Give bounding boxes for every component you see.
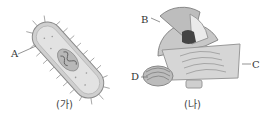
label-a: A bbox=[11, 49, 18, 59]
eukaryote-figure bbox=[141, 7, 251, 88]
caption-na: (나) bbox=[184, 96, 201, 111]
diagram-canvas bbox=[0, 0, 269, 120]
caption-ga: (가) bbox=[56, 96, 73, 111]
label-b: B bbox=[141, 15, 148, 25]
label-d: D bbox=[131, 72, 139, 82]
label-c: C bbox=[252, 60, 260, 70]
label-a-leader bbox=[18, 46, 36, 54]
